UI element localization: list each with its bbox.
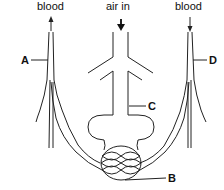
- left-blood-vessel: [36, 32, 102, 170]
- air-in-label: air in: [106, 1, 130, 12]
- label-d: D: [209, 55, 217, 66]
- right-blood-down-arrow-icon: [188, 17, 193, 32]
- label-c: C: [148, 101, 156, 112]
- air-in-down-arrow-icon: [117, 19, 125, 31]
- label-a: A: [21, 55, 29, 66]
- alveolus-diagram: blood air in blood A D C B: [0, 0, 224, 190]
- right-blood-label: blood: [175, 1, 202, 12]
- alveolus-sac: [88, 115, 154, 150]
- left-blood-up-arrow-icon: [49, 16, 54, 31]
- airway-branches: [88, 32, 153, 115]
- left-blood-label: blood: [37, 1, 64, 12]
- capillary-network: [101, 146, 141, 180]
- label-b-leader: [125, 178, 166, 180]
- label-b: B: [168, 173, 176, 184]
- diagram-drawing: [0, 0, 224, 190]
